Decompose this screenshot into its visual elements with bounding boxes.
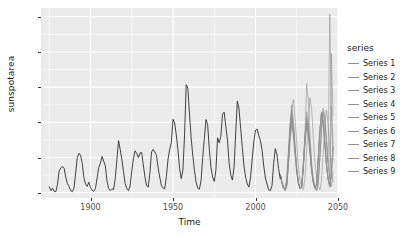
legend-label: Series 4 (363, 100, 395, 109)
historical-line (49, 85, 280, 192)
x-axis-title: Time (41, 217, 338, 227)
legend-key-line-icon (347, 71, 360, 84)
legend-item-3[interactable]: Series 3 (347, 84, 409, 98)
legend-item-5[interactable]: Series 5 (347, 111, 409, 125)
x-tick-mark (256, 198, 257, 201)
legend-label: Series 7 (363, 140, 395, 149)
legend-key-line-icon (347, 57, 360, 70)
x-tick-mark (338, 198, 339, 201)
plot-area (41, 8, 338, 198)
x-tick-mark (91, 198, 92, 201)
historical-series-line (49, 85, 280, 192)
legend-label: Series 6 (363, 127, 395, 136)
legend-key-line-icon (347, 138, 360, 151)
forecast-series-lines (280, 14, 333, 191)
legend-item-8[interactable]: Series 8 (347, 152, 409, 166)
legend-key-line-icon (347, 152, 360, 165)
x-tick-label: 1950 (148, 203, 198, 212)
legend-items: Series 1Series 2Series 3Series 4Series 5… (347, 57, 409, 179)
legend-key-line-icon (347, 98, 360, 111)
legend-label: Series 5 (363, 113, 395, 122)
legend-item-2[interactable]: Series 2 (347, 71, 409, 85)
plot-panel (41, 8, 338, 198)
legend-title: series (347, 43, 409, 53)
sunspot-timeseries-chart: sunspotarea 010002000300040005000 190019… (0, 0, 409, 242)
legend-key-line-icon (347, 111, 360, 124)
forecast-line-4 (280, 84, 333, 191)
legend-label: Series 2 (363, 73, 395, 82)
legend-key-line-icon (347, 84, 360, 97)
legend-item-6[interactable]: Series 6 (347, 125, 409, 139)
legend-key-line-icon (347, 125, 360, 138)
legend-item-7[interactable]: Series 7 (347, 138, 409, 152)
legend-label: Series 9 (363, 167, 395, 176)
x-tick-mark (173, 198, 174, 201)
legend-item-4[interactable]: Series 4 (347, 98, 409, 112)
legend-label: Series 8 (363, 154, 395, 163)
x-tick-label: 2000 (231, 203, 281, 212)
legend: series Series 1Series 2Series 3Series 4S… (347, 43, 409, 179)
x-tick-label: 2050 (313, 203, 363, 212)
legend-key-line-icon (347, 165, 360, 178)
legend-label: Series 3 (363, 86, 395, 95)
x-tick-label: 1900 (66, 203, 116, 212)
legend-item-1[interactable]: Series 1 (347, 57, 409, 71)
legend-label: Series 1 (363, 59, 395, 68)
legend-item-9[interactable]: Series 9 (347, 165, 409, 179)
